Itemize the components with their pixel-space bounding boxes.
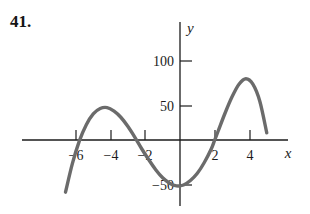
- y-axis-label: y: [185, 20, 194, 36]
- x-tick-label-2: 2: [212, 148, 219, 163]
- x-tick-label--4: −4: [104, 148, 119, 163]
- x-tick-label-4: 4: [247, 148, 254, 163]
- y-tick-label-100: 100: [153, 54, 174, 69]
- graph-figure: −6 −4 −2 2 4 100 50 −50 y x: [0, 0, 310, 214]
- x-axis-label: x: [284, 145, 292, 161]
- cubic-curve-icon: [65, 79, 266, 192]
- figure-page: 41. −6 −4 −2 2 4 100 50 −50 y x: [0, 0, 310, 214]
- y-tick-label-50: 50: [160, 99, 174, 114]
